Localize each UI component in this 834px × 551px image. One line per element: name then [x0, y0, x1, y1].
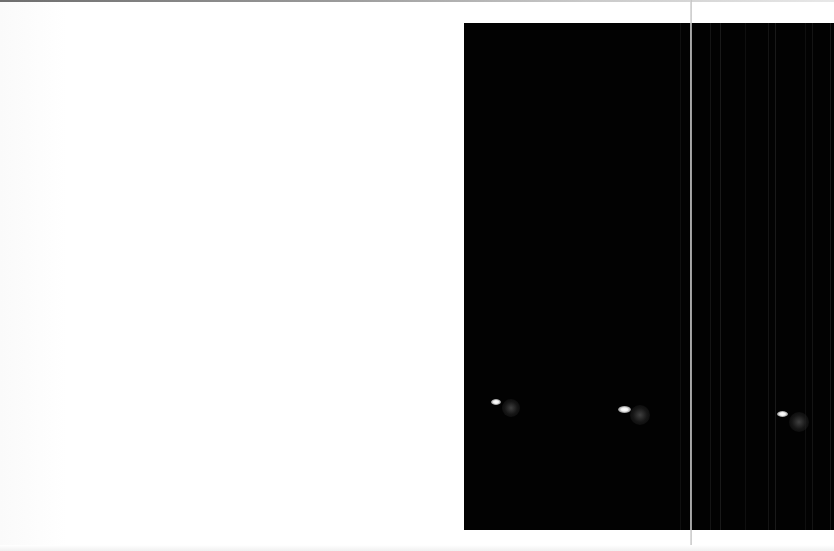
- page-top-edge-shadow: [0, 0, 834, 2]
- page-fold-line: [690, 0, 692, 551]
- vertical-streak: [710, 23, 711, 530]
- scanned-page: Scanned page: blank white left half, bla…: [0, 0, 834, 551]
- vertical-streak: [812, 23, 813, 530]
- vertical-streak: [830, 23, 831, 530]
- vertical-streak: [720, 23, 721, 530]
- vertical-streak: [745, 23, 746, 530]
- page-bottom-edge: [0, 545, 834, 551]
- spot-2-halo: [630, 405, 650, 425]
- black-image-panel: [464, 23, 834, 530]
- vertical-streak: [680, 23, 681, 530]
- vertical-streak: [768, 23, 769, 530]
- vertical-streak: [775, 23, 776, 530]
- spot-1-halo: [502, 399, 520, 417]
- vertical-streak: [805, 23, 806, 530]
- spot-3-halo: [789, 412, 809, 432]
- spot-3-bright-spot: [777, 411, 788, 417]
- spot-1-bright-spot: [491, 399, 501, 405]
- spot-2-bright-spot: [618, 406, 631, 413]
